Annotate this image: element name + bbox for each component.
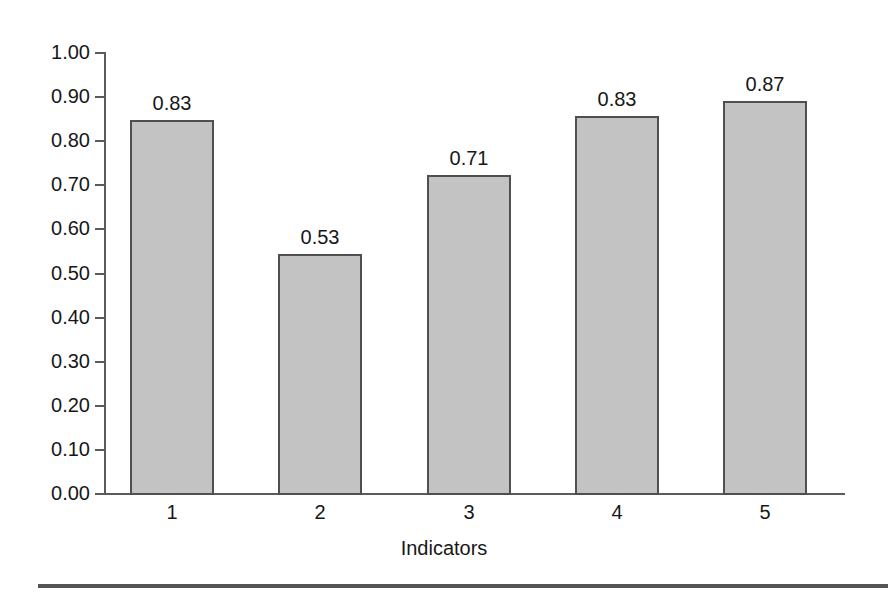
bar-value-3: 0.71 bbox=[427, 147, 511, 169]
x-axis-tick-label-5: 5 bbox=[723, 500, 807, 524]
y-axis-label-wrap: 0.40 bbox=[20, 307, 90, 327]
bar-4[interactable] bbox=[575, 116, 659, 495]
y-axis-tick-label: 0.80 bbox=[28, 130, 90, 150]
y-axis-label-wrap: 0.60 bbox=[20, 218, 90, 238]
y-axis-tick bbox=[95, 449, 105, 451]
y-axis-label-wrap: 0.90 bbox=[20, 86, 90, 106]
y-axis-tick-label: 0.10 bbox=[28, 439, 90, 459]
y-axis-label-wrap: 1.00 bbox=[20, 42, 90, 62]
y-axis-tick-label: 0.60 bbox=[28, 218, 90, 238]
y-axis-label-wrap: 0.30 bbox=[20, 351, 90, 371]
y-axis-tick bbox=[95, 405, 105, 407]
y-axis-label-wrap: 0.10 bbox=[20, 439, 90, 459]
y-axis-tick-label: 0.70 bbox=[28, 174, 90, 194]
y-axis-label-wrap: 0.00 bbox=[20, 483, 90, 503]
x-axis-tick-label-2: 2 bbox=[278, 500, 362, 524]
y-axis-tick-label: 0.90 bbox=[28, 86, 90, 106]
y-axis-label-wrap: 0.20 bbox=[20, 395, 90, 415]
y-axis-tick bbox=[95, 96, 105, 98]
y-axis-tick-label: 1.00 bbox=[28, 42, 90, 62]
y-axis-tick bbox=[95, 228, 105, 230]
y-axis-tick bbox=[95, 140, 105, 142]
y-axis-label-wrap: 0.70 bbox=[20, 174, 90, 194]
bar-3[interactable] bbox=[427, 175, 511, 495]
y-axis-label-wrap: 0.80 bbox=[20, 130, 90, 150]
y-axis-tick-label: 0.30 bbox=[28, 351, 90, 371]
bar-value-1: 0.83 bbox=[130, 92, 214, 114]
plot-area: 1.00 0.90 0.80 0.70 0.60 0.50 0.40 0.30 … bbox=[0, 0, 888, 598]
y-axis-tick bbox=[95, 361, 105, 363]
bar-value-2: 0.53 bbox=[278, 226, 362, 248]
y-axis-tick-label: 0.40 bbox=[28, 307, 90, 327]
x-axis-tick-label-3: 3 bbox=[427, 500, 511, 524]
y-axis-tick bbox=[95, 52, 105, 54]
bar-1[interactable] bbox=[130, 120, 214, 495]
bottom-divider-rule bbox=[38, 584, 888, 588]
bar-value-5: 0.87 bbox=[723, 73, 807, 95]
y-axis-tick bbox=[95, 317, 105, 319]
y-axis-tick-label: 0.20 bbox=[28, 395, 90, 415]
x-axis-tick-label-1: 1 bbox=[130, 500, 214, 524]
y-axis-tick bbox=[95, 493, 105, 495]
y-axis-label-wrap: 0.50 bbox=[20, 263, 90, 283]
y-axis-tick-label: 0.00 bbox=[28, 483, 90, 503]
y-axis-tick-label: 0.50 bbox=[28, 263, 90, 283]
y-axis-tick bbox=[95, 184, 105, 186]
x-axis-title: Indicators bbox=[0, 537, 888, 560]
x-axis-tick-label-4: 4 bbox=[575, 500, 659, 524]
bar-2[interactable] bbox=[278, 254, 362, 495]
bar-value-4: 0.83 bbox=[575, 88, 659, 110]
bar-5[interactable] bbox=[723, 101, 807, 495]
y-axis-tick bbox=[95, 273, 105, 275]
